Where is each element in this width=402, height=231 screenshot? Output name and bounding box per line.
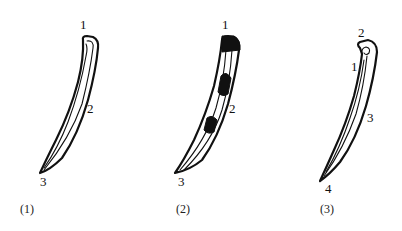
caption-2: (2) bbox=[176, 202, 190, 216]
label-2-middle: 2 bbox=[229, 101, 236, 116]
label-3-hook: 2 bbox=[358, 25, 365, 40]
ink-blot-lower bbox=[204, 116, 217, 133]
figure-3: 2 1 3 4 (3) bbox=[320, 25, 377, 216]
label-2-top: 1 bbox=[222, 17, 229, 32]
label-1-tip: 3 bbox=[40, 174, 47, 189]
ink-blot-top bbox=[222, 36, 240, 52]
label-1-top: 1 bbox=[80, 17, 87, 32]
label-3-left: 1 bbox=[351, 59, 358, 74]
caption-1: (1) bbox=[20, 202, 34, 216]
label-3-middle: 3 bbox=[367, 110, 374, 125]
caption-3: (3) bbox=[320, 202, 334, 216]
diagram-canvas: 1 2 3 (1) 1 2 3 (2) 2 1 3 4 (3) bbox=[0, 0, 402, 231]
label-2-tip: 3 bbox=[178, 174, 185, 189]
figure-2: 1 2 3 (2) bbox=[175, 17, 240, 216]
figure-1: 1 2 3 (1) bbox=[20, 17, 98, 216]
label-3-tip: 4 bbox=[325, 181, 332, 196]
ink-blot-middle bbox=[218, 73, 231, 95]
label-1-middle: 2 bbox=[87, 101, 94, 116]
